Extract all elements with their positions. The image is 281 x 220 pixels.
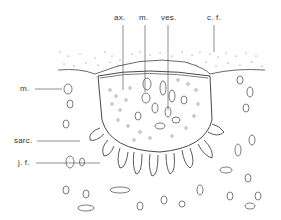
label-connective-fibers: c. f. (207, 14, 221, 22)
label-mitochondria-left: m. (20, 85, 29, 93)
label-axon: ax. (114, 14, 125, 22)
label-mitochondria-top: m. (139, 14, 148, 22)
connective-fibers-dots (59, 51, 262, 66)
label-sarcoplasm: sarc. (14, 137, 32, 145)
label-junctional-folds: j. f. (18, 159, 30, 167)
label-vesicles: ves. (161, 14, 176, 22)
diagram-illustration (0, 0, 281, 220)
